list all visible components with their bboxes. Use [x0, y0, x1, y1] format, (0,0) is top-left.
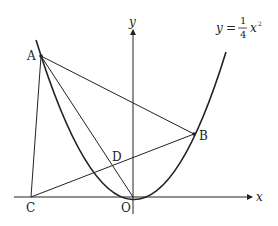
- point-A-dot: [39, 54, 43, 58]
- origin-label: O: [121, 201, 131, 215]
- svg-text:y: y: [215, 21, 223, 35]
- segment-AC: [31, 56, 41, 197]
- segment-CB: [31, 134, 194, 197]
- diagram-canvas: A B C D O x y y = 1 4 x 2: [0, 0, 278, 226]
- svg-text:x: x: [250, 21, 257, 35]
- point-B-dot: [192, 132, 196, 136]
- segment-AB: [41, 56, 194, 134]
- point-D-label: D: [112, 150, 122, 164]
- point-C-label: C: [26, 201, 35, 215]
- point-A-label: A: [26, 49, 36, 63]
- x-axis-label: x: [256, 190, 263, 204]
- parabola-curve: [36, 40, 226, 200]
- curve-equation-label: y = 1 4 x 2: [215, 15, 262, 40]
- svg-text:=: =: [226, 21, 236, 35]
- y-axis-label: y: [128, 15, 136, 29]
- svg-text:2: 2: [258, 20, 262, 27]
- point-B-label: B: [199, 129, 208, 143]
- svg-text:4: 4: [240, 29, 246, 40]
- svg-text:1: 1: [240, 15, 246, 26]
